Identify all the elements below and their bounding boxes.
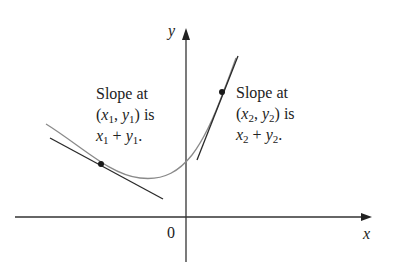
annotation-1-line1: Slope at <box>96 83 155 104</box>
y-sub: 1 <box>129 113 135 125</box>
origin-label: 0 <box>167 222 175 243</box>
diagram-canvas <box>0 0 393 272</box>
y-sub: 2 <box>269 112 275 124</box>
annotation-1-line2: (x1, y1) is <box>96 104 155 125</box>
b-var: y <box>266 126 273 143</box>
is-word: is <box>284 105 295 122</box>
annotation-1-line3: x1 + y1. <box>96 125 155 146</box>
annotation-2-line3: x2 + y2. <box>236 124 295 145</box>
period: . <box>278 126 282 143</box>
x-axis-label: x <box>363 223 370 244</box>
y-var: y <box>122 106 129 123</box>
annotation-point-2: Slope at (x2, y2) is x2 + y2. <box>236 82 295 145</box>
a-sub: 2 <box>243 133 249 145</box>
annotation-2-line1: Slope at <box>236 82 295 103</box>
annotation-point-1: Slope at (x1, y1) is x1 + y1. <box>96 83 155 146</box>
point-2-marker <box>219 89 225 95</box>
b-var: y <box>126 127 133 144</box>
plus-op: + <box>113 127 122 144</box>
period: . <box>138 127 142 144</box>
x-sub: 2 <box>248 112 254 124</box>
point-1-marker <box>98 161 104 167</box>
plus-op: + <box>253 126 262 143</box>
annotation-2-line2: (x2, y2) is <box>236 103 295 124</box>
a-sub: 1 <box>103 134 109 146</box>
is-word: is <box>144 106 155 123</box>
x-axis-arrow-icon <box>361 213 372 221</box>
tangent-line-2 <box>197 56 238 160</box>
y-axis-arrow-icon <box>182 28 190 40</box>
x-sub: 1 <box>108 113 114 125</box>
y-var: y <box>262 105 269 122</box>
tangent-line-1 <box>50 138 163 199</box>
y-axis-label: y <box>168 20 175 41</box>
